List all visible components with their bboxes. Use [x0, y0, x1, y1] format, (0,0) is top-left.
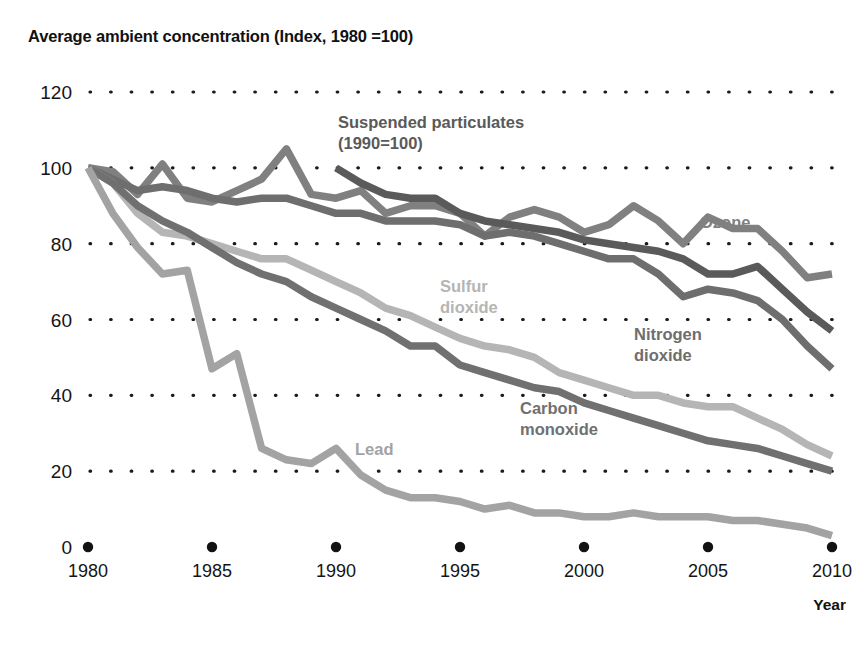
x-axis-tick-label: 1995: [440, 561, 480, 581]
series-label-suspended-particulates: (1990=100): [338, 134, 423, 152]
y-axis-ticks: 020406080100120: [40, 82, 72, 558]
x-axis-title: Year: [813, 596, 846, 614]
series-label-sulfur-dioxide: Sulfur: [440, 277, 488, 295]
x-axis-tick-label: 1990: [316, 561, 356, 581]
x-axis-tick-dot: [703, 542, 713, 552]
data-series-group: [88, 149, 832, 536]
series-label-lead: Lead: [355, 440, 394, 458]
x-axis-tick-dot: [827, 542, 837, 552]
line-chart-plot: 020406080100120 198019851990199520002005…: [0, 0, 868, 649]
x-axis-tick-dot: [83, 542, 93, 552]
x-axis-tick-markers: [83, 542, 837, 552]
x-axis-tick-label: 1980: [68, 561, 108, 581]
series-label-ozone: Ozone: [700, 213, 750, 231]
y-axis-tick-label: 100: [40, 158, 72, 179]
x-axis-tick-label: 2005: [688, 561, 728, 581]
x-axis-tick-dot: [331, 542, 341, 552]
x-axis-ticks: 1980198519901995200020052010: [68, 561, 852, 581]
series-label-carbon-monoxide: Carbon: [520, 399, 578, 417]
series-label-sulfur-dioxide: dioxide: [440, 298, 498, 316]
y-axis-tick-label: 120: [40, 82, 72, 103]
x-axis-tick-label: 1985: [192, 561, 232, 581]
x-axis-tick-dot: [207, 542, 217, 552]
x-axis-tick-dot: [455, 542, 465, 552]
y-axis-tick-label: 20: [51, 461, 72, 482]
series-label-suspended-particulates: Suspended particulates: [338, 113, 524, 131]
x-axis-tick-label: 2000: [564, 561, 604, 581]
y-axis-tick-label: 0: [61, 537, 72, 558]
y-axis-tick-label: 60: [51, 310, 72, 331]
series-label-nitrogen-dioxide: Nitrogen: [634, 325, 702, 343]
chart-container: Average ambient concentration (Index, 19…: [0, 0, 868, 649]
x-axis-tick-label: 2010: [812, 561, 852, 581]
series-label-nitrogen-dioxide: dioxide: [634, 346, 692, 364]
series-label-carbon-monoxide: monoxide: [520, 420, 598, 438]
y-axis-tick-label: 80: [51, 234, 72, 255]
x-axis-tick-dot: [579, 542, 589, 552]
y-axis-tick-label: 40: [51, 385, 72, 406]
